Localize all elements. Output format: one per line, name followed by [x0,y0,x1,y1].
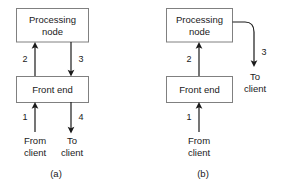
panel-a-flow-1-arrow: 1 [22,106,35,133]
panel-a-flow-1-number: 1 [22,112,27,122]
panel-b-flow-1-number: 1 [186,112,191,122]
panel-a-to-client-label: To client [61,135,84,158]
panel-b: Processing node Front end 2 1 3 [167,9,267,180]
panel-b-flow-1-arrow: 1 [186,106,199,133]
panel-b-from-client-line2: client [188,147,211,158]
panel-a-processing-node-box: Processing node [17,9,89,43]
panel-b-front-end-label: Front end [179,84,220,95]
panel-a-to-client-line1: To [67,135,77,146]
panel-a-flow-2-arrow: 2 [22,46,35,77]
panel-a-flow-3-number: 3 [78,54,83,64]
panel-a-processing-node-label-line1: Processing [29,14,76,25]
panel-b-from-client-line1: From [188,135,210,146]
panel-b-flow-2-number: 2 [186,54,191,64]
panel-a-from-client-line2: client [24,147,47,158]
panel-a-caption: (a) [50,168,62,179]
panel-b-to-client-label: To client [244,71,267,94]
figure-container: Processing node Front end 2 3 1 [0,0,290,189]
panel-b-flow-3-number: 3 [261,47,266,57]
panel-a-front-end-box: Front end [17,77,89,103]
panel-a-flow-4-number: 4 [78,112,83,122]
panel-a-from-client-label: From client [24,135,47,158]
panel-b-flow-3-arrow: 3 [233,22,267,64]
panel-a-from-client-line1: From [24,135,46,146]
panel-a-processing-node-label-line2: node [42,26,63,37]
panel-b-from-client-label: From client [188,135,211,158]
panel-b-caption: (b) [197,168,209,179]
panel-b-processing-node-box: Processing node [167,9,233,43]
panel-b-processing-node-label-line2: node [189,26,210,37]
panel-b-front-end-box: Front end [167,77,233,103]
panel-a-front-end-label: Front end [32,84,73,95]
panel-b-to-client-line2: client [244,83,267,94]
panel-b-to-client-line1: To [250,71,260,82]
panel-b-processing-node-label-line1: Processing [176,14,223,25]
panel-a-flow-3-arrow: 3 [71,42,84,73]
panel-a: Processing node Front end 2 3 1 [17,9,89,180]
panel-a-to-client-line2: client [61,147,84,158]
panel-a-flow-4-arrow: 4 [71,102,84,130]
panel-b-flow-2-arrow: 2 [186,46,199,77]
panel-a-flow-2-number: 2 [22,54,27,64]
